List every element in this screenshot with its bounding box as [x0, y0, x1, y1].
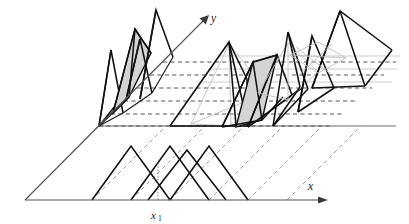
pyramid-group-right: [273, 11, 392, 126]
pyramid-right-big: [312, 11, 392, 88]
pyramid-mid-1: [170, 42, 248, 126]
pyramid-mid-shaded-face: [236, 55, 277, 127]
hat-functions-foreground: [92, 146, 248, 200]
depth-dashed-lines: [92, 126, 361, 200]
x1-point-label: x 1: [150, 209, 162, 223]
y-axis: [25, 15, 209, 200]
figure-container: x y x 1: [0, 0, 409, 224]
ground-plane: [25, 126, 396, 200]
pyramid-right-small: [273, 32, 308, 126]
pyramid-basis-diagram: x y x 1: [0, 0, 409, 224]
x-axis-label: x: [307, 180, 314, 192]
pyramid-group-left: [99, 10, 173, 126]
x-axis: [25, 196, 328, 203]
x1-label-subscript: 1: [158, 214, 162, 223]
y-axis-label: y: [210, 12, 217, 25]
x1-label-base: x: [150, 209, 156, 221]
x-axis-arrowhead: [318, 196, 328, 203]
